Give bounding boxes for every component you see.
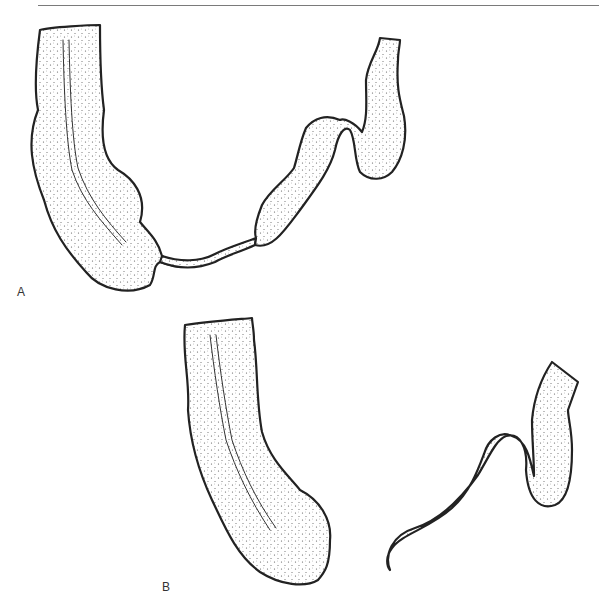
panel-label-b: B [162,580,170,594]
panel-label-a: A [17,285,25,299]
panel-a-left-segment [31,25,186,291]
panel-b-right-segment [387,362,578,570]
panel-a-right-segment [255,38,405,246]
panel-b-left-segment [184,318,330,584]
illustration [0,0,599,604]
panel-a-strand [160,238,256,267]
